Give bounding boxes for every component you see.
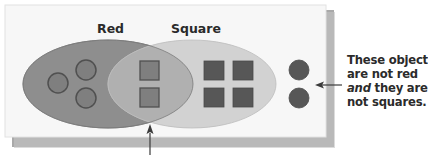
- set-label-square: Square: [171, 21, 221, 36]
- annotation-line-3: and they are: [347, 81, 428, 95]
- annotation-line-1: These objects: [347, 53, 428, 67]
- annotation-emphasis: and: [347, 81, 371, 95]
- red-circle-object: [76, 88, 96, 108]
- annotation-text: These objects are not red and they are n…: [347, 53, 428, 109]
- set-label-red: Red: [97, 21, 124, 36]
- red-square-object: [140, 61, 159, 80]
- annotation-line-2: are not red: [347, 67, 428, 81]
- non-red-square-object: [233, 88, 253, 107]
- non-red-square-object: [204, 61, 224, 80]
- annotation-line-3-rest: they are: [371, 81, 428, 95]
- non-red-square-object: [233, 61, 253, 80]
- non-red-circle-object: [289, 60, 309, 80]
- red-square-object: [140, 88, 159, 107]
- non-red-circle-object: [289, 88, 309, 108]
- red-circle-object: [76, 60, 96, 80]
- annotation-line-4: not squares.: [347, 95, 428, 109]
- red-circle-object: [48, 73, 68, 93]
- non-red-square-object: [204, 88, 224, 107]
